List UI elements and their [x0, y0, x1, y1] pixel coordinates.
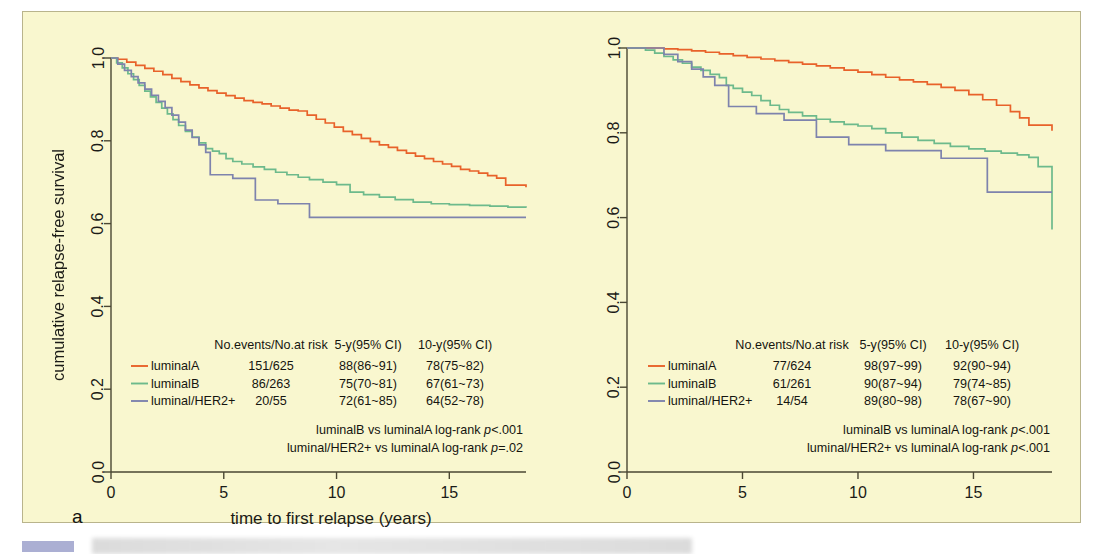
legend-events-at-risk: 20/55 [255, 394, 287, 408]
y-tick-label: 0.4 [606, 291, 623, 313]
caption-color-chip [22, 541, 74, 552]
km-curve-luminala [627, 48, 1052, 131]
x-tick-label: 15 [965, 484, 983, 501]
legend-header-5y: 5-y(95% CI) [859, 338, 926, 352]
legend-header-events: No.events/No.at risk [735, 338, 849, 352]
panel-a-x-axis-label: time to first relapse (years) [111, 509, 551, 529]
legend-series-name: luminalB [151, 377, 199, 391]
legend-5y-ci: 72(61~85) [339, 394, 397, 408]
y-tick-label: 1.0 [606, 37, 623, 59]
log-rank-annotation: luminalB vs luminalA log-rank p<.001 [316, 423, 523, 437]
legend-events-at-risk: 77/624 [773, 359, 812, 373]
legend-5y-ci: 89(80~98) [864, 394, 922, 408]
legend-10y-ci: 92(90~94) [953, 359, 1011, 373]
legend-5y-ci: 88(86~91) [339, 359, 397, 373]
legend-events-at-risk: 14/54 [776, 394, 808, 408]
x-tick-label: 15 [440, 484, 458, 501]
y-tick-label: 0.2 [606, 376, 623, 398]
km-curve-luminalb [111, 58, 526, 208]
legend-header-5y: 5-y(95% CI) [334, 338, 401, 352]
legend-series-name: luminal/HER2+ [151, 394, 235, 408]
legend-5y-ci: 75(70~81) [339, 377, 397, 391]
figure-frame: cumulative relapse-free survival 0.00.20… [22, 11, 1081, 523]
x-tick-label: 0 [107, 484, 116, 501]
legend-events-at-risk: 61/261 [773, 377, 812, 391]
x-tick-label: 5 [219, 484, 228, 501]
legend-5y-ci: 98(97~99) [864, 359, 922, 373]
legend-10y-ci: 78(75~82) [426, 359, 484, 373]
y-tick-label: 0.8 [606, 122, 623, 144]
legend-events-at-risk: 86/263 [252, 377, 291, 391]
legend-header-10y: 10-y(95% CI) [418, 338, 492, 352]
legend-header-10y: 10-y(95% CI) [945, 338, 1019, 352]
legend-10y-ci: 67(61~73) [426, 377, 484, 391]
y-tick-label: 0.6 [606, 206, 623, 228]
log-rank-annotation: luminalB vs luminalA log-rank p<.001 [843, 423, 1050, 437]
legend-5y-ci: 90(87~94) [864, 377, 922, 391]
km-curve-luminalb [627, 48, 1052, 229]
y-tick-label: 0.4 [90, 295, 107, 317]
km-curve-luminalher2 [627, 48, 1052, 192]
y-tick-label: 0.0 [606, 461, 623, 483]
legend-10y-ci: 79(74~85) [953, 377, 1011, 391]
panel-b-breast-cancer-specific-survival: cumulative breast cancer-specific surviv… [552, 12, 1082, 524]
legend-10y-ci: 64(52~78) [426, 394, 484, 408]
panel-a-letter: a [72, 506, 83, 528]
x-tick-label: 10 [849, 484, 867, 501]
y-tick-label: 1.0 [90, 47, 107, 69]
legend-series-name: luminal/HER2+ [668, 394, 752, 408]
panel-a-plot: 0.00.20.40.60.81.0051015No.events/No.at … [23, 12, 553, 524]
legend-series-name: luminalB [668, 377, 716, 391]
figure-page: cumulative relapse-free survival 0.00.20… [0, 0, 1103, 554]
km-curve-luminalher2 [111, 58, 526, 217]
x-tick-label: 0 [623, 484, 632, 501]
log-rank-annotation: luminal/HER2+ vs luminalA log-rank p=.02 [287, 441, 523, 455]
y-tick-label: 0.2 [90, 378, 107, 400]
log-rank-annotation: luminal/HER2+ vs luminalA log-rank p<.00… [807, 441, 1050, 455]
legend-series-name: luminalA [668, 359, 717, 373]
legend-events-at-risk: 151/625 [248, 359, 294, 373]
y-tick-label: 0.0 [90, 461, 107, 483]
y-tick-label: 0.6 [90, 212, 107, 234]
x-tick-label: 10 [328, 484, 346, 501]
legend-10y-ci: 78(67~90) [953, 394, 1011, 408]
panel-a-relapse-free-survival: cumulative relapse-free survival 0.00.20… [23, 12, 553, 524]
caption-text-cropped [92, 538, 692, 554]
legend-header-events: No.events/No.at risk [214, 338, 328, 352]
x-tick-label: 5 [738, 484, 747, 501]
legend-series-name: luminalA [151, 359, 200, 373]
y-tick-label: 0.8 [90, 130, 107, 152]
km-curve-luminala [111, 58, 526, 187]
panel-b-plot: 0.00.20.40.60.81.0051015No.events/No.at … [552, 12, 1082, 524]
